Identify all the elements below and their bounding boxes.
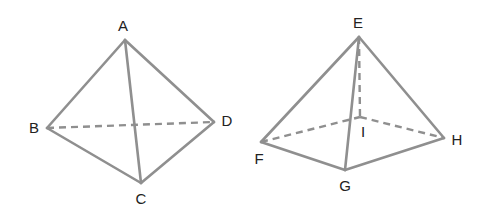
edge-fg: [261, 142, 345, 170]
edge-gh: [345, 138, 444, 170]
edge-ac: [125, 40, 141, 183]
vertex-label-c: C: [136, 190, 147, 207]
edge-eh: [359, 37, 444, 138]
vertex-label-a: A: [118, 17, 128, 34]
vertex-label-e: E: [353, 14, 363, 31]
edge-ad: [125, 40, 214, 122]
edge-ih-hidden: [360, 117, 444, 138]
edge-eg: [345, 37, 359, 170]
vertex-label-f: F: [254, 150, 263, 167]
tetrahedron: A B C D: [29, 17, 233, 207]
edge-fi-hidden: [261, 117, 360, 142]
edge-ab: [47, 40, 125, 128]
geometry-diagram: A B C D E F G H I: [0, 0, 485, 216]
vertex-label-h: H: [452, 131, 463, 148]
edge-ef: [261, 37, 359, 142]
square-pyramid: E F G H I: [254, 14, 462, 194]
edge-ei-hidden: [359, 37, 360, 117]
vertex-label-d: D: [222, 112, 233, 129]
vertex-label-g: G: [339, 177, 351, 194]
vertex-label-i: I: [361, 123, 365, 140]
edge-bd-hidden: [47, 122, 214, 128]
vertex-label-b: B: [29, 119, 39, 136]
edge-cd: [141, 122, 214, 183]
edge-bc: [47, 128, 141, 183]
